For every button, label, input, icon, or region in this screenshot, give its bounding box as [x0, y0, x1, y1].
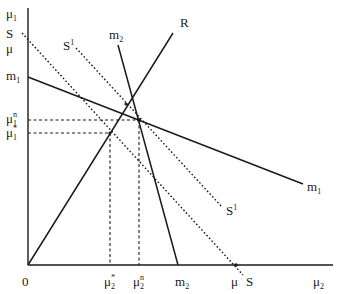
x-tick-mu: μ [231, 274, 238, 289]
y-axis-label: μ1 [6, 6, 17, 23]
x-tick-m2: m2 [175, 274, 189, 291]
origin-label: 0 [22, 274, 29, 289]
curve-label-R: R [180, 15, 189, 30]
curve-label-S1-end: S1 [226, 203, 237, 218]
curve-label-m2: m2 [109, 27, 123, 44]
y-tick-mu1star: μ1* [6, 124, 17, 142]
curve-label-m1: m1 [307, 179, 321, 196]
y-tick-S: S [6, 26, 13, 41]
x-tick-mu2star: μ2* [104, 273, 115, 291]
curve-S [22, 33, 243, 275]
y-tick-mu: μ [6, 41, 13, 56]
curve-R [28, 33, 173, 265]
point-cooperative [108, 131, 111, 134]
point-nash [137, 118, 141, 122]
curve-m1 [28, 77, 303, 184]
curve-label-S1: S1 [63, 38, 74, 53]
x-tick-mu2n: μ2n [133, 273, 144, 291]
x-tick-S: S [246, 274, 253, 289]
y-tick-m1: m1 [6, 68, 20, 85]
x-axis-label: μ2 [313, 274, 324, 291]
point-R-m2-intersection [124, 102, 127, 105]
point-S-xaxis [234, 263, 238, 267]
curve-m2 [118, 45, 178, 265]
diagram: μ1 μ2 0 S μ m1 μ1n μ1* μ2* μ2n m2 μ S R … [0, 0, 338, 294]
